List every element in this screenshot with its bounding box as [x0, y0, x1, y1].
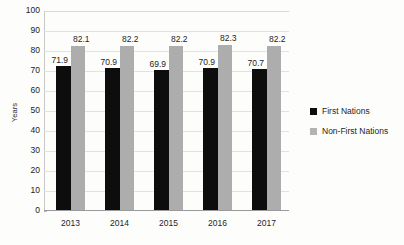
legend-label: First Nations	[322, 106, 370, 116]
y-axis-tick-label: 100	[10, 6, 40, 15]
bar-value-label: 82.3	[220, 34, 254, 43]
bar-value-label: 70.7	[230, 59, 264, 68]
bar-non-first-nations[interactable]	[218, 45, 232, 210]
y-axis-tick-label: 40	[10, 126, 40, 135]
legend-swatch-gray-icon	[310, 128, 317, 135]
y-axis-tick-label: 90	[10, 26, 40, 35]
bar-value-label: 82.2	[171, 35, 205, 44]
bar-first-nations[interactable]	[252, 69, 267, 210]
y-axis-tick-label: 70	[10, 66, 40, 75]
y-axis-tick-label: 30	[10, 146, 40, 155]
legend-item-non-first-nations[interactable]: Non-First Nations	[310, 121, 388, 141]
y-axis-tick-label: 10	[10, 186, 40, 195]
y-axis: 1009080706050403020100	[4, 0, 40, 245]
bar-first-nations[interactable]	[203, 68, 218, 210]
bar-first-nations[interactable]	[105, 68, 120, 210]
bar-value-label: 70.9	[181, 58, 215, 67]
legend-label: Non-First Nations	[322, 126, 388, 136]
legend-item-first-nations[interactable]: First Nations	[310, 101, 388, 121]
bar-non-first-nations[interactable]	[169, 46, 183, 210]
bar-non-first-nations[interactable]	[267, 46, 281, 210]
bar-value-label: 71.9	[34, 56, 68, 65]
y-axis-tick-label: 80	[10, 46, 40, 55]
y-axis-tick-mark	[44, 211, 47, 212]
x-axis-line	[44, 210, 289, 211]
bar-value-label: 82.2	[122, 35, 156, 44]
chart-legend: First Nations Non-First Nations	[310, 101, 388, 141]
legend-swatch-black-icon	[310, 108, 317, 115]
y-axis-tick-label: 60	[10, 86, 40, 95]
y-axis-tick-label: 50	[10, 106, 40, 115]
x-axis-tick-label: 2017	[237, 218, 297, 228]
y-axis-tick-label: 20	[10, 166, 40, 175]
bar-non-first-nations[interactable]	[71, 46, 85, 210]
bar-first-nations[interactable]	[56, 66, 71, 210]
bar-non-first-nations[interactable]	[120, 46, 134, 210]
bar-value-label: 82.2	[269, 35, 303, 44]
bar-value-label: 69.9	[132, 60, 166, 69]
bar-value-label: 82.1	[73, 35, 107, 44]
bar-chart: Years 1009080706050403020100 20132014201…	[0, 0, 404, 245]
y-axis-tick-label: 0	[10, 206, 40, 215]
bar-first-nations[interactable]	[154, 70, 169, 210]
bar-value-label: 70.9	[83, 58, 117, 67]
